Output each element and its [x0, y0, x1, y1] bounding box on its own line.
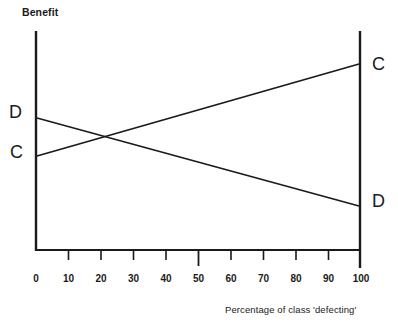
chart-container: Benefit D C C D 0 10 20 30 40 50 60 70 8…: [0, 0, 398, 326]
series-line-C: [37, 64, 359, 156]
series-label-c-right: C: [372, 55, 385, 73]
x-axis-label: Percentage of class 'defecting': [225, 305, 356, 315]
x-tick-label-10: 10: [63, 274, 74, 284]
x-tick-label-0: 0: [33, 274, 39, 284]
series-label-d-right: D: [372, 192, 385, 210]
page-title: Benefit: [22, 7, 58, 18]
series-label-d-left: D: [9, 103, 22, 121]
x-tick-label-90: 90: [323, 274, 334, 284]
x-tick-label-40: 40: [160, 274, 171, 284]
x-axis-ticks: [69, 251, 329, 266]
series-line-D: [37, 118, 359, 206]
x-tick-label-60: 60: [225, 274, 236, 284]
x-tick-label-100: 100: [353, 274, 370, 284]
series-label-c-left: C: [10, 143, 23, 161]
x-tick-label-70: 70: [258, 274, 269, 284]
x-tick-label-80: 80: [290, 274, 301, 284]
x-tick-label-50: 50: [193, 274, 204, 284]
x-tick-label-30: 30: [128, 274, 139, 284]
x-tick-label-20: 20: [95, 274, 106, 284]
